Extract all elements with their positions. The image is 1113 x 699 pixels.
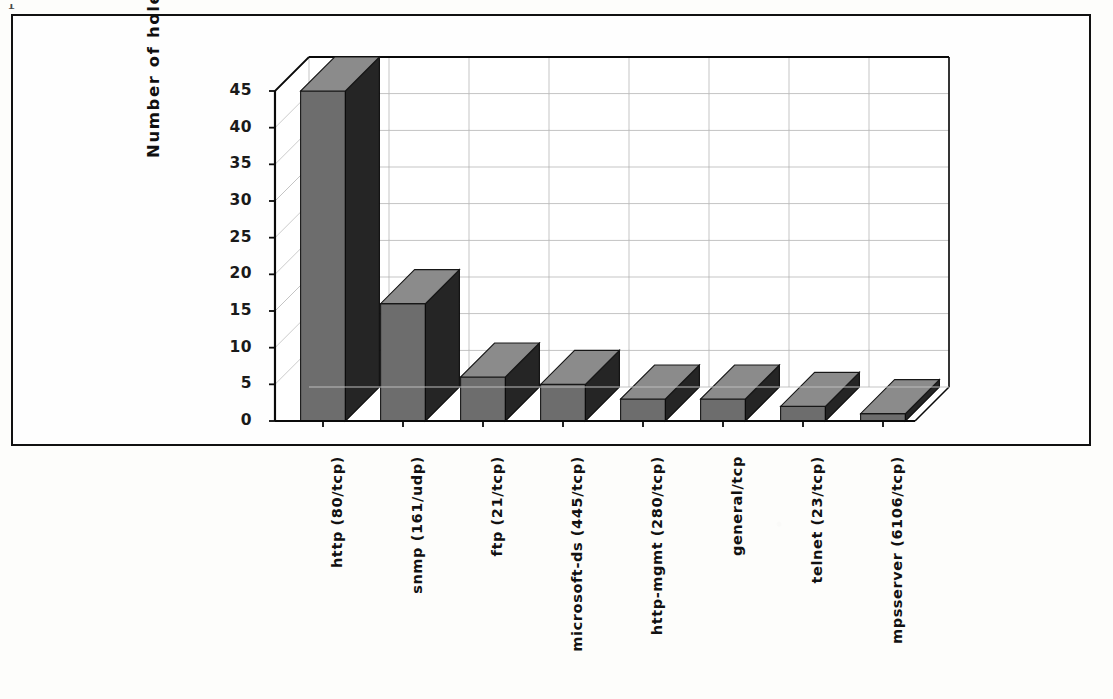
x-tick-label-7: mpsserver (6106/tcp)	[889, 456, 905, 644]
x-tick-label-5: general/tcp	[729, 456, 745, 556]
chart-svg	[260, 31, 978, 431]
bar-front-face	[301, 91, 346, 421]
x-tick-label-3: microsoft-ds (445/tcp)	[569, 456, 585, 652]
bar-front-face	[621, 399, 666, 421]
bar-front-face	[461, 377, 506, 421]
x-tick-label-4: http-mgmt (280/tcp)	[649, 456, 665, 635]
y-tick-label-30: 30	[229, 193, 252, 209]
y-tick-label-0: 0	[241, 413, 252, 429]
bar-front-face	[381, 304, 426, 421]
y-tick-label-10: 10	[229, 340, 252, 356]
figure-frame: Number of holes 051015202530354045 http …	[11, 14, 1091, 446]
x-tick-label-2: ftp (21/tcp)	[489, 456, 505, 557]
y-tick-label-25: 25	[229, 230, 252, 246]
chart-3d-cube	[260, 31, 978, 431]
y-axis-tick-labels: 051015202530354045	[206, 30, 252, 432]
bar-front-face	[781, 406, 826, 421]
bar-side-face	[345, 57, 379, 421]
x-tick-label-1: snmp (161/udp)	[409, 456, 425, 594]
y-tick-label-20: 20	[229, 267, 252, 283]
y-tick-label-45: 45	[229, 83, 252, 99]
y-tick-label-35: 35	[229, 157, 252, 173]
bar-front-face	[701, 399, 746, 421]
plot-area	[260, 31, 978, 431]
x-tick-label-6: telnet (23/tcp)	[809, 456, 825, 584]
x-tick-label-0: http (80/tcp)	[329, 456, 345, 568]
y-axis-title: Number of holes	[144, 0, 163, 158]
bar-front-face	[541, 384, 586, 421]
y-tick-label-15: 15	[229, 303, 252, 319]
x-axis-tick-labels: http (80/tcp)snmp (161/udp)ftp (21/tcp)m…	[260, 456, 1020, 686]
y-tick-label-40: 40	[229, 120, 252, 136]
y-tick-label-5: 5	[241, 377, 252, 393]
